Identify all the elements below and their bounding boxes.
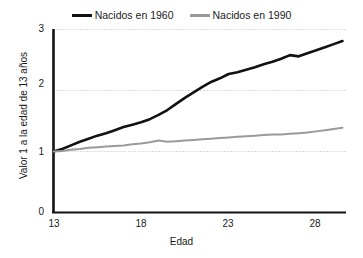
x-tick-label-23: 23 [216,218,240,229]
x-tick-label-18: 18 [129,218,153,229]
x-axis-label: Edad [0,236,363,247]
chart-figure: Nacidos en 1960 Nacidos en 1990 Valor 1 … [0,0,363,258]
data-series [54,41,343,151]
y-tick-label-2: 2 [30,78,44,89]
series-line [54,41,343,151]
y-tick-label-0: 0 [30,206,44,217]
y-tick-label-1: 1 [30,146,44,157]
y-tick-label-3: 3 [30,23,44,34]
x-tick-label-28: 28 [303,218,327,229]
y-axis-label: Valor 1 a la edad de 13 años [18,31,29,201]
series-line [54,128,343,152]
x-tick-label-13: 13 [42,218,66,229]
